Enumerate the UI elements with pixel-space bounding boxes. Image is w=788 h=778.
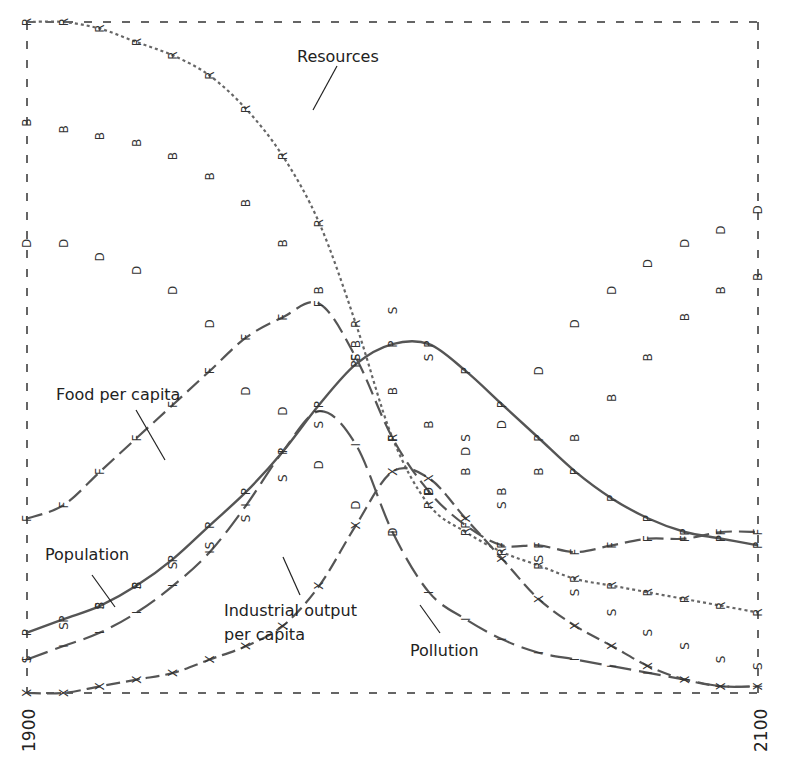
marker-s: S [422, 354, 436, 362]
marker-b: B [422, 420, 436, 428]
marker-i: I [130, 611, 144, 615]
marker-r: R [203, 72, 217, 80]
marker-p: P [459, 367, 473, 374]
marker-i: I [312, 409, 326, 413]
label-industrial-output-line1: Industrial output [224, 601, 357, 620]
marker-x: X [203, 655, 217, 663]
marker-i: I [568, 658, 582, 662]
label-pollution: Pollution [410, 641, 479, 660]
marker-f: F [239, 334, 253, 341]
marker-x: X [57, 689, 71, 697]
marker-s: S [495, 501, 509, 509]
marker-b: B [532, 467, 546, 475]
marker-s: S [714, 656, 728, 664]
marker-p: P [714, 535, 728, 542]
marker-i: I [203, 550, 217, 554]
marker-f: F [605, 542, 619, 549]
marker-b: B [166, 152, 180, 160]
marker-d: D [678, 239, 692, 248]
marker-f: F [751, 528, 765, 535]
marker-i: I [422, 591, 436, 595]
marker-s: S [93, 602, 107, 610]
marker-p: P [751, 542, 765, 549]
marker-b: B [276, 239, 290, 247]
marker-d: D [349, 500, 363, 509]
marker-f: F [495, 542, 509, 549]
marker-d: D [714, 225, 728, 234]
marker-b: B [130, 139, 144, 147]
marker-s: S [203, 542, 217, 550]
marker-p: P [20, 629, 34, 636]
marker-r: R [130, 38, 144, 46]
marker-d: D [203, 319, 217, 328]
marker-b: B [641, 353, 655, 361]
marker-i: I [532, 651, 546, 655]
label-food-per-capita: Food per capita [56, 385, 180, 404]
marker-b: B [239, 199, 253, 207]
marker-f: F [714, 528, 728, 535]
curve-food-per-capita [27, 302, 758, 552]
marker-b: B [386, 387, 400, 395]
annotation-leader-lines [92, 66, 440, 633]
marker-x: X [312, 581, 326, 589]
marker-p: P [422, 340, 436, 347]
marker-r: R [20, 18, 34, 26]
marker-i: I [276, 450, 290, 454]
marker-b: B [714, 286, 728, 294]
marker-b: B [203, 172, 217, 180]
marker-b: B [605, 394, 619, 402]
marker-r: R [714, 602, 728, 610]
marker-s: S [57, 622, 71, 630]
marker-s: S [532, 555, 546, 563]
marker-x: X [714, 682, 728, 690]
markers-industrial-output-per-capita: IIIIIIIIIIIIIIIIIIIII [20, 409, 765, 688]
marker-b: B [678, 313, 692, 321]
marker-x: X [678, 675, 692, 683]
curve-resources [27, 22, 758, 613]
marker-r: R [422, 501, 436, 509]
marker-r: R [751, 608, 765, 616]
marker-x: X [20, 689, 34, 697]
marker-d: D [386, 527, 400, 536]
marker-p: P [678, 528, 692, 535]
marker-r: R [641, 588, 655, 596]
markers-resources: RRRRRRRRRRRRRRRRRRRRR [20, 18, 765, 617]
world3-standard-run-chart: RRRRRRRRRRRRRRRRRRRRRFFFFFFFFFFFFFFFFFFF… [0, 0, 788, 778]
marker-i: I [605, 664, 619, 668]
curve-pollution [27, 468, 758, 693]
marker-p: P [532, 434, 546, 441]
label-resources: Resources [297, 47, 379, 66]
marker-r: R [166, 51, 180, 59]
marker-b: B [751, 273, 765, 281]
marker-s: S [239, 515, 253, 523]
marker-p: P [239, 488, 253, 495]
marker-f: F [568, 549, 582, 556]
marker-i: I [166, 584, 180, 588]
marker-d: D [495, 420, 509, 429]
marker-b: B [495, 488, 509, 496]
marker-i: I [57, 644, 71, 648]
marker-x: X [605, 642, 619, 650]
marker-b: B [349, 340, 363, 348]
marker-i: I [641, 671, 655, 675]
marker-f: F [386, 434, 400, 441]
marker-d: D [239, 386, 253, 395]
marker-d: D [751, 205, 765, 214]
marker-i: I [239, 503, 253, 507]
marker-d: D [20, 239, 34, 248]
marker-s: S [568, 589, 582, 597]
marker-d: D [312, 460, 326, 469]
marker-i: I [93, 631, 107, 635]
series-markers: RRRRRRRRRRRRRRRRRRRRRFFFFFFFFFFFFFFFFFFF… [20, 18, 765, 697]
marker-r: R [276, 152, 290, 160]
curve-industrial-output-per-capita [27, 411, 758, 687]
marker-p: P [568, 468, 582, 475]
marker-s: S [641, 629, 655, 637]
marker-f: F [20, 515, 34, 522]
marker-s: S [459, 434, 473, 442]
marker-d: D [422, 487, 436, 496]
marker-r: R [605, 581, 619, 589]
label-industrial-output-line2: per capita [224, 625, 305, 644]
marker-x: X [459, 514, 473, 522]
marker-x: X [568, 622, 582, 630]
